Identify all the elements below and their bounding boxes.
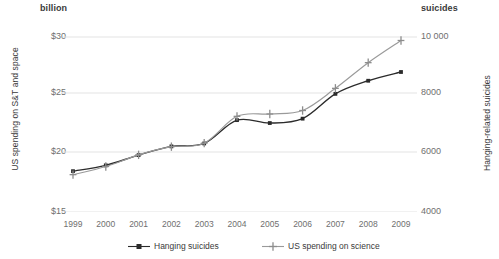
legend-label: US spending on science (288, 241, 380, 251)
data-point-marker (102, 162, 109, 170)
data-point-marker (301, 117, 305, 121)
data-point-marker (70, 170, 77, 178)
series-layer (70, 36, 405, 179)
right-axis-tick-label: 8000 (421, 87, 471, 97)
series-line (73, 41, 401, 175)
right-axis-tick-label: 6000 (421, 146, 471, 156)
data-point-marker (299, 106, 306, 114)
data-point-marker (334, 92, 338, 96)
left-axis-title: US spending on S&T and space (10, 34, 20, 184)
plot-area (63, 22, 417, 212)
left-axis-tick-label: $25 (20, 87, 66, 97)
data-point-marker (268, 121, 272, 125)
legend-label: Hanging suicides (154, 241, 219, 251)
right-axis-title: Hanging-related suicides (482, 48, 492, 198)
x-axis-tick-label: 2009 (381, 219, 421, 229)
legend-item-hanging-suicides[interactable]: Hanging suicides (128, 241, 219, 251)
left-axis-tick-label: $30 (20, 31, 66, 41)
legend-item-us-spending-on-science[interactable]: US spending on science (262, 241, 380, 251)
data-point-marker (266, 110, 273, 118)
data-point-marker (365, 58, 372, 66)
data-point-marker (201, 139, 208, 147)
data-point-marker (398, 36, 405, 44)
plus-cross-icon (262, 242, 284, 251)
data-point-marker (366, 79, 370, 83)
gridlines (63, 37, 417, 212)
data-point-marker (168, 142, 175, 150)
right-axis-tick-label: 4000 (421, 206, 471, 216)
right-axis-tick-label: 10 000 (421, 31, 471, 41)
dual-axis-line-chart: billion suicides US spending on S&T and … (0, 0, 499, 259)
left-axis-tick-label: $20 (20, 146, 66, 156)
right-axis-unit-header: suicides (421, 3, 458, 13)
left-axis-unit-header: billion (40, 3, 67, 13)
square-dot-icon (128, 242, 150, 251)
left-axis-tick-label: $15 (20, 206, 66, 216)
data-point-marker (332, 84, 339, 92)
data-point-marker (399, 70, 403, 74)
